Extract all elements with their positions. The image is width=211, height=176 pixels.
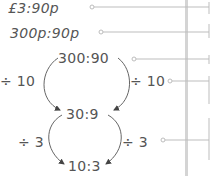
ratio-start: 300:90 xyxy=(58,50,109,66)
arrow-left-bottom xyxy=(49,115,64,164)
ratio-pence: 300p:90p xyxy=(10,25,79,41)
op-right-bottom: ÷ 3 xyxy=(122,134,148,150)
ratio-end: 10:3 xyxy=(68,158,101,174)
vertical-rail xyxy=(185,0,188,176)
op-right-top: ÷ 10 xyxy=(130,73,165,89)
op-left-bottom: ÷ 3 xyxy=(18,134,44,150)
ratio-pounds: £3:90p xyxy=(8,0,59,16)
op-left-top: ÷ 10 xyxy=(0,73,35,89)
arrow-right-bottom xyxy=(106,115,121,164)
arrow-right-top xyxy=(114,58,130,110)
ratio-mid: 30:9 xyxy=(66,106,99,122)
